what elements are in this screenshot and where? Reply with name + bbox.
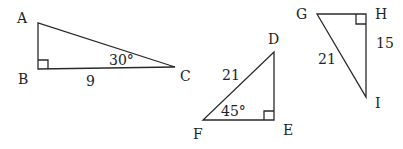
side-label-gi: 21 <box>318 51 336 67</box>
vertex-label-h: H <box>375 6 387 22</box>
triangle-abc: A B C 9 30° <box>16 10 191 89</box>
vertex-label-g: G <box>296 6 307 22</box>
side-label-hi: 15 <box>376 35 394 51</box>
triangle-def: D E F 21 45° <box>193 31 293 142</box>
triangles-diagram: A B C 9 30° D E F 21 45° G H I 21 15 <box>0 0 403 149</box>
triangle-ghi: G H I 21 15 <box>296 6 394 111</box>
vertex-label-i: I <box>375 95 381 111</box>
triangle-abc-outline <box>38 23 175 69</box>
vertex-label-b: B <box>18 71 28 87</box>
angle-label-c: 30° <box>109 52 134 68</box>
right-angle-marker-b <box>38 60 48 69</box>
side-label-bc: 9 <box>86 73 95 89</box>
right-angle-marker-h <box>356 14 366 24</box>
vertex-label-f: F <box>193 126 203 142</box>
vertex-label-d: D <box>268 31 279 47</box>
angle-label-f: 45° <box>221 103 246 119</box>
vertex-label-a: A <box>16 10 28 26</box>
side-label-df: 21 <box>222 67 240 83</box>
vertex-label-c: C <box>180 68 191 84</box>
right-angle-marker-e <box>264 111 274 120</box>
vertex-label-e: E <box>283 122 293 138</box>
